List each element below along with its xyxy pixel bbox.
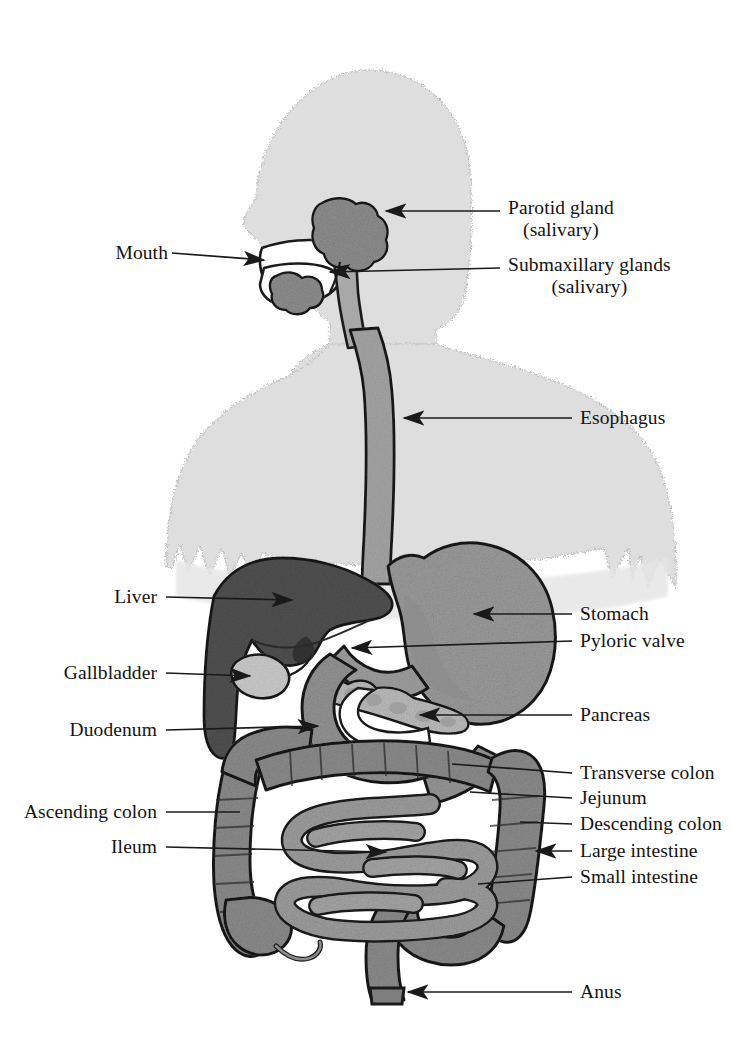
label-transverse-colon: Transverse colon — [580, 762, 715, 784]
body-silhouette — [166, 70, 676, 620]
label-mouth: Mouth — [84, 242, 168, 264]
anatomy-illustration — [0, 0, 732, 1051]
leader-ileum — [166, 847, 386, 852]
label-anus: Anus — [580, 981, 622, 1003]
label-large-intestine: Large intestine — [580, 840, 698, 862]
label-duodenum: Duodenum — [0, 719, 157, 741]
label-ascending-colon: Ascending colon — [0, 801, 157, 823]
digestive-system-figure: Parotid gland (salivary) Submaxillary gl… — [0, 0, 732, 1051]
label-submaxillary-glands: Submaxillary glands (salivary) — [508, 254, 671, 298]
label-jejunum: Jejunum — [580, 787, 647, 809]
label-descending-colon: Descending colon — [580, 813, 722, 835]
label-small-intestine: Small intestine — [580, 866, 698, 888]
label-gallbladder: Gallbladder — [0, 662, 157, 684]
label-esophagus: Esophagus — [580, 407, 665, 429]
label-parotid-gland: Parotid gland (salivary) — [508, 197, 614, 241]
label-pyloric-valve: Pyloric valve — [580, 630, 685, 652]
label-pancreas: Pancreas — [580, 704, 650, 726]
label-ileum: Ileum — [0, 836, 157, 858]
label-stomach: Stomach — [580, 603, 649, 625]
label-liver: Liver — [0, 586, 157, 608]
